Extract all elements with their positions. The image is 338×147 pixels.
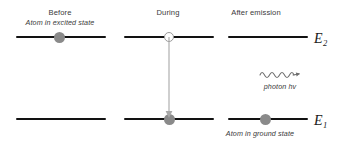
energy-level-line-lower-before	[16, 118, 106, 120]
photon-caption: photon hv	[248, 82, 312, 91]
transition-arrow-down	[162, 37, 176, 119]
column-title-during: During	[123, 8, 213, 17]
energy-label-upper: E2	[314, 31, 327, 47]
energy-level-line-upper-after	[228, 36, 308, 38]
energy-label-lower: E1	[314, 113, 327, 129]
column-title-before: Before	[10, 8, 110, 17]
electron-excited-before	[54, 32, 65, 43]
column-title-after: After emission	[210, 8, 302, 17]
energy-label-lower-subscript: 1	[323, 120, 327, 130]
energy-label-upper-subscript: 2	[323, 38, 327, 48]
energy-label-lower-letter: E	[314, 113, 323, 128]
column-subtitle-after: Atom in ground state	[206, 129, 314, 138]
emission-diagram: Before Atom in excited state During Afte…	[0, 0, 338, 147]
electron-ground-after	[260, 114, 271, 125]
column-subtitle-before: Atom in excited state	[2, 18, 118, 27]
photon-wave-icon	[259, 69, 301, 81]
energy-label-upper-letter: E	[314, 31, 323, 46]
